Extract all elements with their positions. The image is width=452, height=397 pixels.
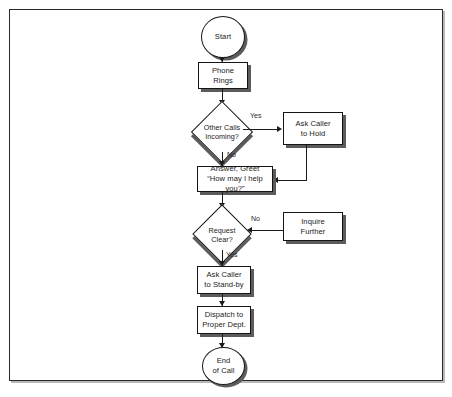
node-answer-greet-label: Answer, Greet “How may I help you?” — [198, 164, 272, 194]
node-start[interactable]: Start — [201, 16, 245, 58]
request-clear-text-wrap: Request Clear? — [191, 207, 253, 262]
flowchart-canvas: Start Phone Rings Other Calls Incoming? … — [0, 0, 452, 397]
node-inquire-further[interactable]: Inquire Further — [283, 212, 343, 241]
edge-ask-hold-left — [278, 180, 307, 181]
node-request-clear[interactable]: Request Clear? — [191, 207, 253, 262]
node-dispatch-label: Dispatch to Proper Dept. — [200, 310, 248, 330]
node-inquire-further-label: Inquire Further — [299, 217, 328, 237]
node-other-calls-incoming-label: Other Calls Incoming? — [202, 123, 243, 141]
node-ask-caller-standby-label: Ask Caller to Stand-by — [202, 270, 245, 290]
edge-request-clear-to-inquire — [249, 230, 283, 231]
node-ask-caller-to-hold-label: Ask Caller to Hold — [293, 119, 332, 139]
node-request-clear-label: Request Clear? — [206, 226, 237, 244]
arrowhead-other-calls-yes — [277, 126, 282, 132]
node-dispatch[interactable]: Dispatch to Proper Dept. — [197, 306, 251, 334]
node-ask-caller-to-hold[interactable]: Ask Caller to Hold — [283, 112, 343, 145]
node-other-calls-incoming[interactable]: Other Calls Incoming? — [191, 104, 253, 160]
node-phone-rings-label: Phone Rings — [210, 66, 236, 86]
arrowhead-ask-hold-to-answer — [273, 177, 278, 183]
node-start-label: Start — [213, 32, 233, 42]
node-phone-rings[interactable]: Phone Rings — [198, 62, 248, 89]
node-ask-caller-standby[interactable]: Ask Caller to Stand-by — [197, 266, 251, 294]
node-end-of-call[interactable]: End of Call — [202, 347, 245, 385]
other-calls-text-wrap: Other Calls Incoming? — [191, 104, 253, 160]
edge-ask-hold-down — [306, 145, 307, 181]
node-answer-greet[interactable]: Answer, Greet “How may I help you?” — [197, 166, 273, 192]
node-end-of-call-label: End of Call — [211, 356, 237, 376]
